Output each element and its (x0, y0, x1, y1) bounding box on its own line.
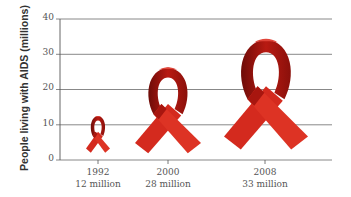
y-tick-10: 10 (34, 118, 54, 128)
category-year: 2000 (133, 166, 203, 178)
category-2000: 2000 28 million (133, 166, 203, 190)
y-axis-label: People living with AIDS (millions) (18, 5, 30, 171)
red-ribbon-icon-2000 (135, 67, 201, 153)
category-value: 28 million (133, 178, 203, 190)
category-year: 2008 (230, 166, 300, 178)
category-year: 1992 (63, 166, 133, 178)
y-tick-40: 40 (34, 12, 54, 22)
y-tick-30: 30 (34, 47, 54, 57)
red-ribbon-icon-1992 (86, 116, 110, 153)
category-value: 12 million (63, 178, 133, 190)
category-value: 33 million (230, 178, 300, 190)
red-ribbon-icon-2008 (224, 39, 308, 150)
y-tick-20: 20 (34, 82, 54, 92)
x-ticks (98, 160, 265, 164)
category-2008: 2008 33 million (230, 166, 300, 190)
y-tick-0: 0 (34, 153, 54, 163)
category-1992: 1992 12 million (63, 166, 133, 190)
